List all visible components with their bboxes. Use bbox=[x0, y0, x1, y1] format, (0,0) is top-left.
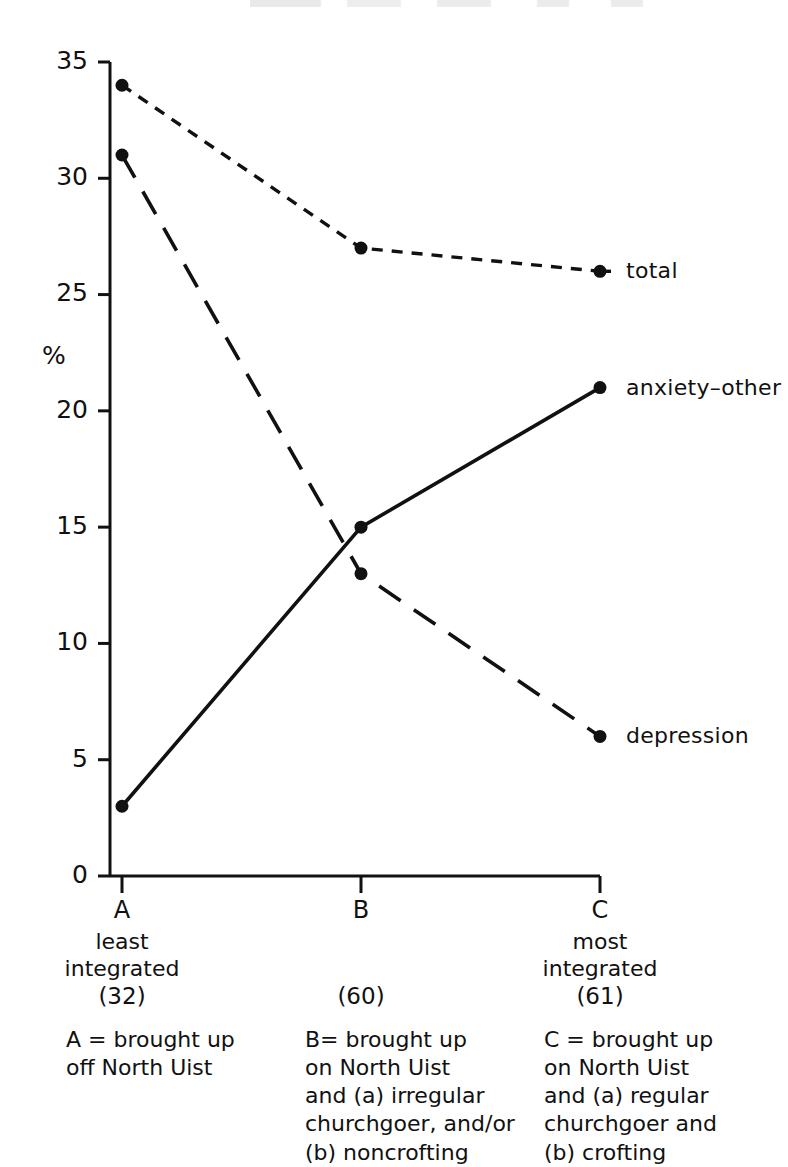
x-group-note-b-line3: and (a) irregular bbox=[305, 1083, 484, 1108]
x-group-note-a-line1: A = brought up bbox=[66, 1027, 235, 1052]
y-tick-label-0: 0 bbox=[28, 862, 88, 887]
y-tick-label-25: 25 bbox=[28, 280, 88, 305]
y-axis-title: % bbox=[42, 343, 66, 368]
x-axis-ticks bbox=[122, 876, 600, 893]
x-group-desc-a-line1: least bbox=[95, 929, 148, 954]
x-group-note-c-line2: on North Uist bbox=[544, 1055, 689, 1080]
y-tick-label-5: 5 bbox=[28, 746, 88, 771]
y-tick-label-30: 30 bbox=[28, 164, 88, 189]
y-tick-label-35: 35 bbox=[28, 48, 88, 73]
x-group-note-b-line5: (b) noncrofting bbox=[305, 1140, 469, 1165]
x-group-desc-c: mostintegrated bbox=[485, 929, 715, 983]
y-axis-ticks bbox=[98, 62, 110, 876]
x-group-note-a: A = brought upoff North Uist bbox=[66, 1026, 302, 1082]
x-group-desc-c-line1: most bbox=[573, 929, 628, 954]
x-group-desc-c-line2: integrated bbox=[543, 956, 658, 981]
x-group-note-b-line2: on North Uist bbox=[305, 1055, 450, 1080]
series-label-anxiety-other: anxiety–other bbox=[626, 377, 781, 399]
series-depression-markers bbox=[116, 149, 607, 743]
x-group-note-c-line5: (b) crofting bbox=[544, 1140, 666, 1165]
series-anxiety-other-line bbox=[122, 388, 600, 807]
x-group-count-c: (61) bbox=[485, 985, 715, 1008]
x-tick-label-b: B bbox=[301, 898, 421, 922]
x-group-note-c: C = brought upon North Uistand (a) regul… bbox=[544, 1026, 780, 1167]
series-total-markers bbox=[116, 79, 607, 278]
x-group-note-c-line4: churchgoer and bbox=[544, 1111, 717, 1136]
series-label-depression: depression bbox=[626, 725, 749, 747]
x-group-note-a-line2: off North Uist bbox=[66, 1055, 212, 1080]
x-group-note-b: B= brought upon North Uistand (a) irregu… bbox=[305, 1026, 541, 1167]
x-group-note-c-line3: and (a) regular bbox=[544, 1083, 709, 1108]
y-tick-label-15: 15 bbox=[28, 513, 88, 538]
x-group-note-b-line4: churchgoer, and/or bbox=[305, 1111, 515, 1136]
x-group-note-c-line1: C = brought up bbox=[544, 1027, 713, 1052]
x-group-desc-a-line2: integrated bbox=[65, 956, 180, 981]
x-group-count-b: (60) bbox=[246, 985, 476, 1008]
x-group-note-b-line1: B= brought up bbox=[305, 1027, 467, 1052]
series-anxiety-other-markers bbox=[116, 381, 607, 813]
x-tick-label-c: C bbox=[540, 898, 660, 922]
series-label-total: total bbox=[626, 260, 678, 282]
y-tick-label-10: 10 bbox=[28, 629, 88, 654]
y-tick-label-20: 20 bbox=[28, 397, 88, 422]
x-tick-label-a: A bbox=[62, 898, 182, 922]
x-group-count-a: (32) bbox=[7, 985, 237, 1008]
x-group-desc-a: leastintegrated bbox=[7, 929, 237, 983]
